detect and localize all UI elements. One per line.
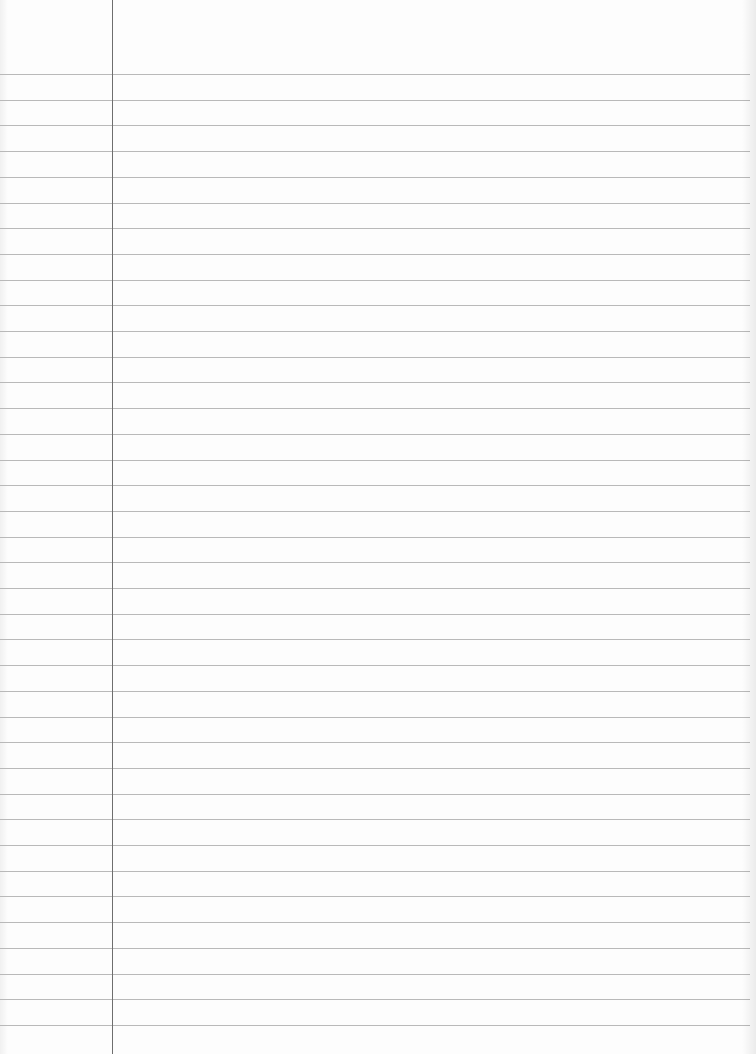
margin-line: [112, 0, 113, 1054]
notebook-page: [0, 0, 756, 1054]
page-edge-shadow: [742, 0, 756, 1054]
